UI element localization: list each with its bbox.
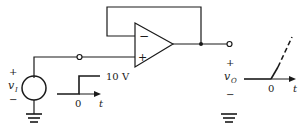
output-time-arrow-icon xyxy=(289,76,296,82)
source-plus-label: + xyxy=(9,66,17,77)
input-terminal-icon xyxy=(77,55,82,60)
step-level-label: 10 V xyxy=(106,71,130,82)
source-minus-label: − xyxy=(9,94,17,105)
circuit-diagram: − + + v I − 10 V 0 t + v O − 0 t xyxy=(0,0,305,132)
output-terminal-icon xyxy=(227,42,232,47)
inverting-input-label: − xyxy=(139,29,149,43)
source-name-label: v xyxy=(8,79,15,92)
output-subscript-label: O xyxy=(231,77,237,85)
feedback-wire xyxy=(107,7,201,44)
voltage-source-icon xyxy=(22,76,46,100)
output-zero-label: 0 xyxy=(268,83,274,94)
output-time-label: t xyxy=(293,83,298,94)
input-time-label: t xyxy=(99,98,104,109)
output-plus-label: + xyxy=(226,57,234,68)
output-ramp-waveform xyxy=(244,37,292,79)
circuit-svg: − + + v I − 10 V 0 t + v O − 0 t xyxy=(0,0,305,132)
ground-icon xyxy=(26,114,42,122)
input-wire-left xyxy=(34,57,77,78)
input-time-arrow-icon xyxy=(94,91,101,97)
noninverting-input-label: + xyxy=(138,51,147,64)
input-zero-label: 0 xyxy=(75,98,81,109)
input-step-waveform xyxy=(57,76,100,94)
output-minus-label: − xyxy=(226,89,234,100)
output-name-label: v xyxy=(224,70,231,83)
junction-dot-icon xyxy=(199,42,203,46)
output-ground-icon xyxy=(221,114,237,122)
source-subscript-label: I xyxy=(14,86,18,94)
